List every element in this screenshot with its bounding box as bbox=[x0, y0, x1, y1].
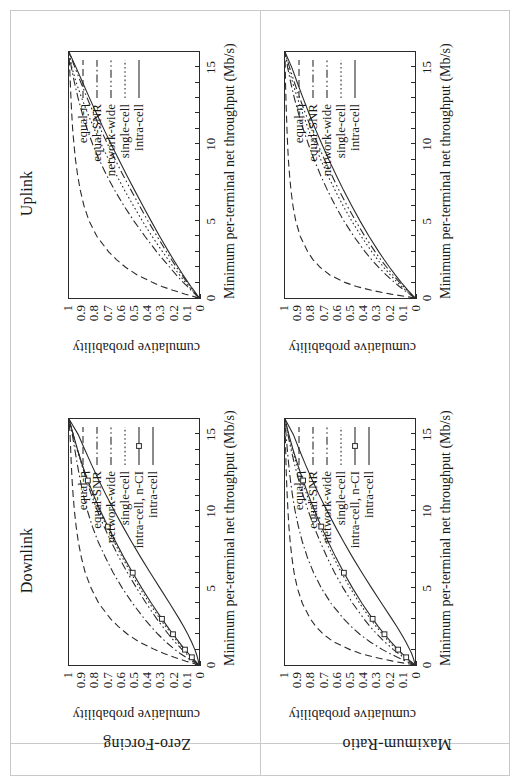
y-tick-label: 1 bbox=[60, 672, 76, 702]
legend-item: intra-cell bbox=[348, 59, 362, 209]
y-tick-label: 1 bbox=[60, 305, 76, 335]
x-tick-mark bbox=[411, 66, 416, 67]
x-tick-mark bbox=[411, 541, 416, 542]
legend-line-sample bbox=[321, 59, 333, 99]
x-tick-mark bbox=[411, 495, 416, 496]
x-tick-label: 0 bbox=[203, 650, 219, 680]
x-tick-mark bbox=[411, 82, 416, 83]
x-tick-label: 15 bbox=[203, 419, 219, 449]
legend-item: network-wide bbox=[320, 426, 334, 576]
x-tick-mark bbox=[411, 159, 416, 160]
x-tick-mark bbox=[195, 128, 200, 129]
x-tick-mark bbox=[195, 220, 200, 221]
x-tick-mark bbox=[411, 251, 416, 252]
x-tick-mark bbox=[411, 510, 416, 511]
legend-label: intra-cell bbox=[145, 466, 161, 518]
x-tick-mark bbox=[195, 66, 200, 67]
x-tick-label: 5 bbox=[203, 573, 219, 603]
x-tick-mark bbox=[411, 51, 416, 52]
x-tick-mark bbox=[195, 510, 200, 511]
legend-label: intra-cell bbox=[131, 99, 147, 151]
x-tick-mark bbox=[195, 480, 200, 481]
legend-item: network-wide bbox=[320, 59, 334, 209]
legend-label: intra-cell bbox=[347, 99, 363, 151]
x-tick-mark bbox=[411, 97, 416, 98]
x-tick-mark bbox=[195, 82, 200, 83]
x-tick-mark bbox=[411, 603, 416, 604]
x-tick-mark bbox=[195, 143, 200, 144]
x-tick-mark bbox=[411, 418, 416, 419]
legend-item: equal-SNR bbox=[306, 426, 320, 576]
x-tick-label: 5 bbox=[419, 573, 435, 603]
x-tick-mark bbox=[411, 433, 416, 434]
legend-item: equal-η bbox=[292, 59, 306, 209]
x-tick-mark bbox=[411, 526, 416, 527]
legend-line-sample bbox=[119, 59, 131, 99]
chart-panel-downlink-maximum-ratio: cumulative probability00.10.20.30.40.50.… bbox=[260, 377, 460, 744]
y-axis-title: cumulative probability bbox=[73, 706, 200, 722]
legend-item: equal-SNR bbox=[90, 59, 104, 209]
x-tick-mark bbox=[195, 113, 200, 114]
legend-line-sample bbox=[321, 426, 333, 466]
legend-line-sample bbox=[293, 59, 305, 99]
y-tick-mark bbox=[416, 294, 417, 299]
x-tick-mark bbox=[195, 541, 200, 542]
y-axis-title: cumulative probability bbox=[289, 339, 416, 355]
y-tick-mark bbox=[200, 294, 201, 299]
x-tick-mark bbox=[195, 251, 200, 252]
x-tick-mark bbox=[411, 464, 416, 465]
x-tick-mark bbox=[195, 297, 200, 298]
x-tick-mark bbox=[195, 603, 200, 604]
legend-line-sample bbox=[77, 426, 89, 466]
x-tick-mark bbox=[411, 572, 416, 573]
legend-line-sample bbox=[335, 426, 347, 466]
chart-legend: equal-ηequal-SNRnetwork-widesingle-celli… bbox=[292, 59, 362, 209]
legend-item: equal-SNR bbox=[90, 426, 104, 576]
x-tick-mark bbox=[195, 495, 200, 496]
x-axis-title: Minimum per-terminal net throughput (Mb/… bbox=[438, 418, 454, 666]
x-tick-mark bbox=[195, 189, 200, 190]
legend-line-sample bbox=[335, 59, 347, 99]
chart-panel-uplink-zero-forcing: cumulative probability00.10.20.30.40.50.… bbox=[44, 10, 244, 377]
legend-line-sample bbox=[349, 59, 361, 99]
legend-label: intra-cell bbox=[361, 466, 377, 518]
legend-item: single-cell bbox=[118, 426, 132, 576]
x-tick-label: 0 bbox=[419, 283, 435, 313]
legend-item: equal-SNR bbox=[306, 59, 320, 209]
x-tick-label: 0 bbox=[419, 650, 435, 680]
chart-legend: equal-ηequal-SNRnetwork-widesingle-celli… bbox=[76, 426, 160, 576]
legend-line-sample bbox=[293, 426, 305, 466]
x-tick-mark bbox=[195, 587, 200, 588]
legend-line-sample bbox=[349, 426, 361, 466]
x-tick-label: 10 bbox=[419, 129, 435, 159]
legend-line-sample bbox=[363, 426, 375, 466]
x-tick-mark bbox=[411, 282, 416, 283]
x-tick-label: 10 bbox=[203, 129, 219, 159]
x-tick-mark bbox=[411, 480, 416, 481]
legend-item: intra-cell bbox=[362, 426, 376, 576]
x-tick-mark bbox=[411, 189, 416, 190]
x-tick-mark bbox=[195, 649, 200, 650]
x-tick-mark bbox=[195, 266, 200, 267]
y-tick-mark bbox=[200, 661, 201, 666]
x-tick-label: 5 bbox=[419, 206, 435, 236]
legend-item: intra-cell, n-CI bbox=[348, 426, 362, 576]
legend-line-sample bbox=[105, 426, 117, 466]
panel-grid: Downlink Uplink cumulative probability00… bbox=[10, 10, 510, 744]
x-tick-mark bbox=[195, 282, 200, 283]
y-tick-mark bbox=[416, 661, 417, 666]
legend-item: single-cell bbox=[118, 59, 132, 209]
legend-line-sample bbox=[91, 59, 103, 99]
x-tick-mark bbox=[411, 174, 416, 175]
legend-line-sample bbox=[307, 59, 319, 99]
x-tick-mark bbox=[195, 205, 200, 206]
x-tick-label: 15 bbox=[203, 52, 219, 82]
figure-canvas: Downlink Uplink cumulative probability00… bbox=[0, 0, 524, 784]
x-tick-mark bbox=[411, 143, 416, 144]
legend-item: equal-η bbox=[292, 426, 306, 576]
x-tick-mark bbox=[411, 205, 416, 206]
legend-item: single-cell bbox=[334, 59, 348, 209]
chart-panel-downlink-zero-forcing: cumulative probability00.10.20.30.40.50.… bbox=[44, 377, 244, 744]
x-tick-mark bbox=[195, 51, 200, 52]
legend-line-sample bbox=[91, 426, 103, 466]
